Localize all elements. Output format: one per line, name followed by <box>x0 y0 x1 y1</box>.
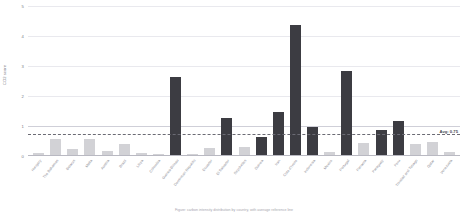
x-axis-label-slot: Austria <box>99 158 116 204</box>
x-axis-tick-label: Mexico <box>323 159 333 171</box>
x-axis-tick-label: Portugal <box>338 159 350 172</box>
bar[interactable] <box>341 71 352 155</box>
x-axis-label-slot: Malta <box>81 158 98 204</box>
x-axis-baseline <box>28 155 460 156</box>
bar[interactable] <box>307 127 318 156</box>
x-axis-label-slot: Brazil <box>116 158 133 204</box>
x-axis-label-slot: Hungary <box>30 158 47 204</box>
x-axis-tick-label: Austria <box>100 159 110 171</box>
y-axis-tick-label: 3 <box>22 64 24 69</box>
y-axis-tick-label: 5 <box>22 4 24 9</box>
x-axis-tick-label: Qatar <box>427 159 436 169</box>
x-axis-label-slot: Libya <box>133 158 150 204</box>
bar[interactable] <box>204 148 215 155</box>
x-axis-label-slot: Ecuador <box>201 158 218 204</box>
x-axis-label-slot: Paraguay <box>373 158 390 204</box>
y-axis-tick-label: 1 <box>22 124 24 129</box>
x-axis-label-slot: Iran <box>270 158 287 204</box>
x-axis-label-slot: Seychelles <box>236 158 253 204</box>
chart-figure: CO2 score 012345 Avg: 0.75 HungaryThe Ba… <box>0 0 468 213</box>
bar[interactable] <box>410 144 421 155</box>
x-axis-label-slot: Trinidad and Tobago <box>407 158 424 204</box>
x-axis-tick-label: Belarus <box>65 159 76 171</box>
y-axis-label: CO2 score <box>2 65 7 85</box>
plot-area: 012345 Avg: 0.75 <box>28 6 460 156</box>
x-axis-tick-label: Venezuela <box>439 159 453 175</box>
x-axis-tick-label: Paraguay <box>372 159 385 174</box>
average-reference-line: Avg: 0.75 <box>28 134 460 135</box>
x-axis-label-slot: The Bahamas <box>47 158 64 204</box>
bar[interactable] <box>427 142 438 155</box>
x-axis-label-slot: Colombia <box>150 158 167 204</box>
x-axis-tick-label: Indonesia <box>303 159 316 174</box>
x-axis-tick-label: Colombia <box>149 159 162 174</box>
x-axis-label-slot: Indonesia <box>304 158 321 204</box>
bar[interactable] <box>119 144 130 155</box>
x-axis-label-slot: Portugal <box>338 158 355 204</box>
average-annotation-label: Avg: 0.75 <box>440 129 458 134</box>
x-axis-label-slot: Qatar <box>424 158 441 204</box>
x-axis-label-slot: Dominican Republic <box>184 158 201 204</box>
bar[interactable] <box>256 137 267 155</box>
x-axis-tick-label: Iran <box>274 159 281 167</box>
x-axis-tick-label: Hungary <box>30 159 42 172</box>
x-axis-label-slot: Guinea <box>253 158 270 204</box>
x-axis-label-slot: Panama <box>355 158 372 204</box>
x-axis-label-slot: Cote d'Ivoire <box>287 158 304 204</box>
x-axis-tick-label: Libya <box>136 159 145 168</box>
x-axis-label-slot: El Salvador <box>218 158 235 204</box>
bar[interactable] <box>170 77 181 155</box>
bar[interactable] <box>50 139 61 155</box>
x-axis-label-slot: Mexico <box>321 158 338 204</box>
x-axis-tick-label: Brazil <box>119 159 128 169</box>
bar[interactable] <box>239 147 250 155</box>
figure-caption: Figure: carbon intensity distribution by… <box>0 208 468 212</box>
bar[interactable] <box>393 121 404 156</box>
x-axis-label-slot: Venezuela <box>441 158 458 204</box>
bar[interactable] <box>358 143 369 155</box>
y-axis-tick-label: 0 <box>22 154 24 159</box>
y-axis-tick-label: 4 <box>22 34 24 39</box>
bar[interactable] <box>84 139 95 156</box>
x-axis-label-slot: Belarus <box>64 158 81 204</box>
bar[interactable] <box>221 118 232 156</box>
x-axis-tick-label: Panama <box>356 159 368 172</box>
x-axis-tick-label: Malta <box>84 159 93 169</box>
y-axis-tick-label: 2 <box>22 94 24 99</box>
bar[interactable] <box>290 25 301 156</box>
x-axis-labels: HungaryThe BahamasBelarusMaltaAustriaBra… <box>28 158 460 204</box>
x-axis-tick-label: Guinea <box>254 159 264 171</box>
x-axis-tick-label: Seychelles <box>233 159 247 176</box>
x-axis-tick-label: El Salvador <box>216 159 231 176</box>
x-axis-tick-label: Ecuador <box>202 159 214 172</box>
x-axis-tick-label: Peru <box>393 159 401 168</box>
